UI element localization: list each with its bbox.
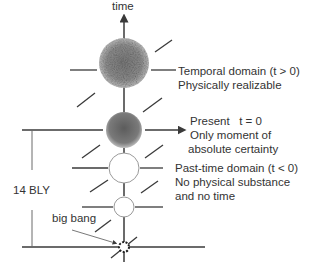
bigbang-pointer [72, 230, 115, 243]
past-line-3: and no time [175, 189, 298, 203]
past-domain-label: Past-time domain (t < 0) No physical sub… [175, 161, 298, 203]
bigbang-icon [119, 242, 129, 252]
bigbang-label: big bang [52, 211, 96, 225]
future-domain-label: Temporal domain (t > 0) Physically reali… [178, 64, 300, 92]
future-line-1: Temporal domain (t > 0) [178, 64, 300, 78]
present-line-2: Only moment of [190, 128, 278, 142]
spacetime-diagram: time Temporal domain (t > 0) Physically … [0, 0, 309, 275]
time-axis-label: time [112, 0, 134, 13]
past-circle-small [114, 197, 134, 217]
past-line-2: No physical substance [175, 175, 298, 189]
past-line-1: Past-time domain (t < 0) [175, 161, 298, 175]
present-sphere [106, 112, 142, 148]
present-line-1: Present t = 0 [190, 114, 278, 128]
past-circle-large [109, 153, 139, 183]
span-label: 14 BLY [13, 183, 50, 197]
future-sphere [99, 38, 149, 88]
present-line-3: absolute certainty [188, 142, 278, 156]
present-domain-label: Present t = 0 Only moment of absolute ce… [190, 114, 278, 156]
future-line-2: Physically realizable [178, 78, 300, 92]
